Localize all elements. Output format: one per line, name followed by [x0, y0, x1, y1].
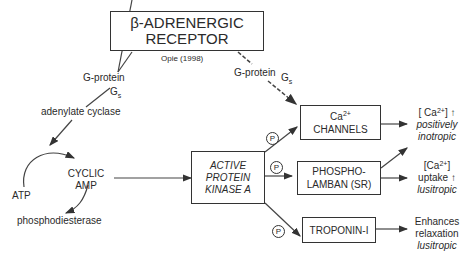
ca-channels-line1: Ca2+ [330, 110, 351, 123]
effect-1-line2: positively [407, 119, 467, 131]
gs-main: G [281, 72, 289, 83]
left-gprotein-label: G-protein [83, 72, 125, 84]
effect-troponin-i: Enhances relaxation lusitropic [407, 216, 467, 252]
effect-3-line1: Enhances [407, 216, 467, 228]
citation: Opie (1998) [161, 53, 203, 65]
phosphodiesterase-label: phosphodiesterase [17, 215, 102, 227]
atp-label: ATP [12, 190, 31, 202]
effect-1-line3: inotropic [407, 131, 467, 143]
phosphate-marker-1: P [266, 132, 279, 145]
ca-channels-box: Ca2+ CHANNELS [300, 105, 381, 140]
effect-2-line3: lusitropic [407, 184, 467, 196]
gs-sub: s [289, 78, 293, 85]
pka-line2: PROTEIN [206, 172, 250, 184]
effect-3-line2: relaxation [407, 228, 467, 240]
phospholamban-box: PHOSPHO- LAMBAN (SR) [297, 161, 381, 195]
protein-kinase-a-box: ACTIVE PROTEIN KINASE A [191, 151, 265, 204]
receptor-line1: β-ADRENERGIC [130, 15, 244, 31]
effect-3-line3: lusitropic [407, 240, 467, 252]
gs-main: G [110, 86, 118, 97]
effect-ca-channels: [ Ca2+] ↑ positively inotropic [407, 107, 467, 143]
pka-line1: ACTIVE [210, 160, 246, 172]
camp-line1: CYCLIC [66, 168, 106, 180]
left-gs-label: Gs [110, 86, 121, 102]
effect-2-line1: [Ca2+] [407, 160, 467, 172]
pka-line3: KINASE A [205, 184, 251, 196]
phosphate-marker-2: P [270, 161, 283, 174]
phosphate-marker-3: P [272, 225, 285, 238]
camp-line2: AMP [66, 180, 106, 192]
effect-phospholamban: [Ca2+] uptake ↑ lusitropic [407, 160, 467, 196]
beta-adrenergic-receptor-box: β-ADRENERGIC RECEPTOR [110, 11, 264, 51]
troponin-i-box: TROPONIN-I [302, 217, 376, 243]
troponin-i-label: TROPONIN-I [310, 225, 369, 236]
effect-2-line2: uptake ↑ [407, 172, 467, 184]
effect-1-line1: [ Ca2+] ↑ [407, 107, 467, 119]
adenylate-cyclase-label: adenylate cyclase [41, 106, 121, 118]
right-gs-label: Gs [281, 72, 292, 88]
receptor-line2: RECEPTOR [145, 31, 228, 47]
right-gprotein-label: G-protein [234, 67, 276, 79]
cyclic-amp-label: CYCLIC AMP [66, 168, 106, 192]
phospholamban-line2: LAMBAN (SR) [307, 178, 371, 191]
phospholamban-line1: PHOSPHO- [312, 165, 365, 178]
gs-sub: s [118, 92, 122, 99]
ca-channels-line2: CHANNELS [313, 123, 367, 136]
